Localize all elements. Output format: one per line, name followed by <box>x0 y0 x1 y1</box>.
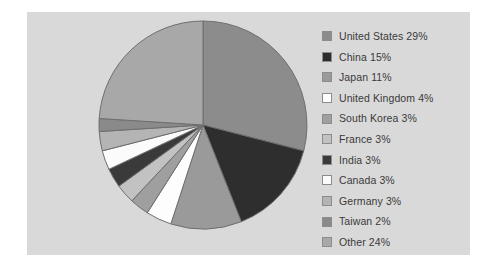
legend-swatch-icon <box>322 72 332 82</box>
legend-item[interactable]: France 3% <box>322 129 472 150</box>
legend-item-label: Other 24% <box>339 232 390 253</box>
legend-item-label: United States 29% <box>339 26 428 47</box>
legend-item-label: India 3% <box>339 150 381 171</box>
legend-item[interactable]: United Kingdom 4% <box>322 88 472 109</box>
legend-swatch-icon <box>322 93 332 103</box>
legend-swatch-icon <box>322 155 332 165</box>
legend-swatch-icon <box>322 217 332 227</box>
legend-item[interactable]: Japan 11% <box>322 67 472 88</box>
legend-item-label: Germany 3% <box>339 191 401 212</box>
legend-swatch-icon <box>322 31 332 41</box>
legend-swatch-icon <box>322 196 332 206</box>
legend-swatch-icon <box>322 114 332 124</box>
legend-item-label: Japan 11% <box>339 67 392 88</box>
legend-item-label: United Kingdom 4% <box>339 88 434 109</box>
legend-item-label: Taiwan 2% <box>339 211 391 232</box>
legend-item[interactable]: South Korea 3% <box>322 108 472 129</box>
legend-item[interactable]: Other 24% <box>322 232 472 253</box>
legend-item[interactable]: India 3% <box>322 150 472 171</box>
pie-slice-group <box>99 21 307 229</box>
pie-chart-svg <box>97 19 309 231</box>
chart-legend: United States 29%China 15%Japan 11%Unite… <box>322 26 472 253</box>
legend-item-label: South Korea 3% <box>339 108 417 129</box>
legend-item-label: Canada 3% <box>339 170 395 191</box>
legend-item[interactable]: Taiwan 2% <box>322 211 472 232</box>
legend-swatch-icon <box>322 237 332 247</box>
legend-item[interactable]: Canada 3% <box>322 170 472 191</box>
pie-chart <box>97 19 309 231</box>
legend-item-label: France 3% <box>339 129 391 150</box>
legend-swatch-icon <box>322 175 332 185</box>
chart-panel: United States 29%China 15%Japan 11%Unite… <box>27 12 470 255</box>
legend-swatch-icon <box>322 134 332 144</box>
legend-item[interactable]: Germany 3% <box>322 191 472 212</box>
legend-item[interactable]: China 15% <box>322 47 472 68</box>
legend-swatch-icon <box>322 52 332 62</box>
legend-item[interactable]: United States 29% <box>322 26 472 47</box>
legend-item-label: China 15% <box>339 47 391 68</box>
pie-slice[interactable] <box>99 21 203 125</box>
